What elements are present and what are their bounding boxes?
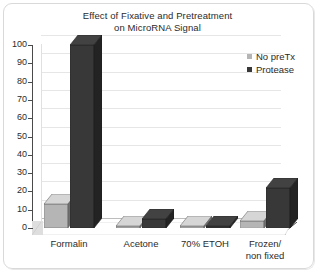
legend-item-protease[interactable]: Protease bbox=[247, 63, 295, 75]
bar-acetone-protease[interactable] bbox=[142, 209, 174, 228]
x-axis-label-line: Acetone bbox=[106, 238, 176, 250]
x-axis-label-line: non fixed bbox=[230, 250, 300, 262]
bar-formalin-protease[interactable] bbox=[70, 35, 102, 228]
x-axis-label-line: Frozen/ bbox=[230, 238, 300, 250]
legend-item-no-pretx[interactable]: No preTx bbox=[247, 50, 295, 62]
chart-screenshot: Effect of Fixative and Pretreatment on M… bbox=[0, 0, 317, 272]
legend-swatch-no-pretx bbox=[247, 54, 252, 59]
legend-label-protease: Protease bbox=[256, 64, 294, 75]
chart-legend: No preTx Protease bbox=[247, 50, 295, 76]
x-axis-label-3: Frozen/non fixed bbox=[230, 238, 300, 262]
legend-swatch-protease bbox=[247, 67, 252, 72]
x-axis-label-line: Formalin bbox=[34, 238, 104, 250]
legend-label-no-pretx: No preTx bbox=[256, 51, 295, 62]
bar-frozen-non-fixed-protease[interactable] bbox=[266, 178, 298, 228]
bar-shape bbox=[206, 216, 238, 228]
x-axis-label-1: Acetone bbox=[106, 238, 176, 250]
bar-shape bbox=[266, 178, 298, 228]
bar-group-container bbox=[0, 0, 317, 272]
x-axis-label-0: Formalin bbox=[34, 238, 104, 250]
bar-shape bbox=[70, 35, 102, 228]
bar-shape bbox=[142, 209, 174, 228]
bar-70-etoh-protease[interactable] bbox=[206, 216, 238, 228]
